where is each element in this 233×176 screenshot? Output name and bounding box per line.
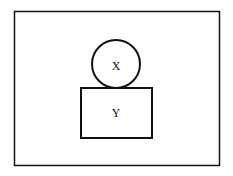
diagram-canvas: X Y [0, 0, 233, 176]
node-x-label: X [112, 59, 121, 73]
node-y-label: Y [112, 106, 121, 120]
